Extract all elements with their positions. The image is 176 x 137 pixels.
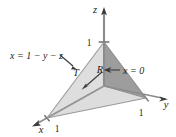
x-axis-label: x (38, 124, 44, 135)
plane-equation-label: x = 0 (122, 65, 144, 76)
y-axis-label: y (163, 99, 169, 110)
y-axis-tick-label: 1 (139, 108, 144, 118)
x-axis-tick-label: 1 (55, 124, 60, 134)
z-axis-tick-label: 1 (87, 38, 92, 48)
tetrahedron-diagram: z y x 1 1 1 T R x = 1 − y − z x = 0 (0, 0, 176, 137)
z-axis-label: z (92, 4, 97, 15)
figure-container: z y x 1 1 1 T R x = 1 − y − z x = 0 (0, 0, 176, 137)
region-label-R: R (96, 64, 104, 75)
surface-equation-label: x = 1 − y − z (9, 50, 63, 61)
